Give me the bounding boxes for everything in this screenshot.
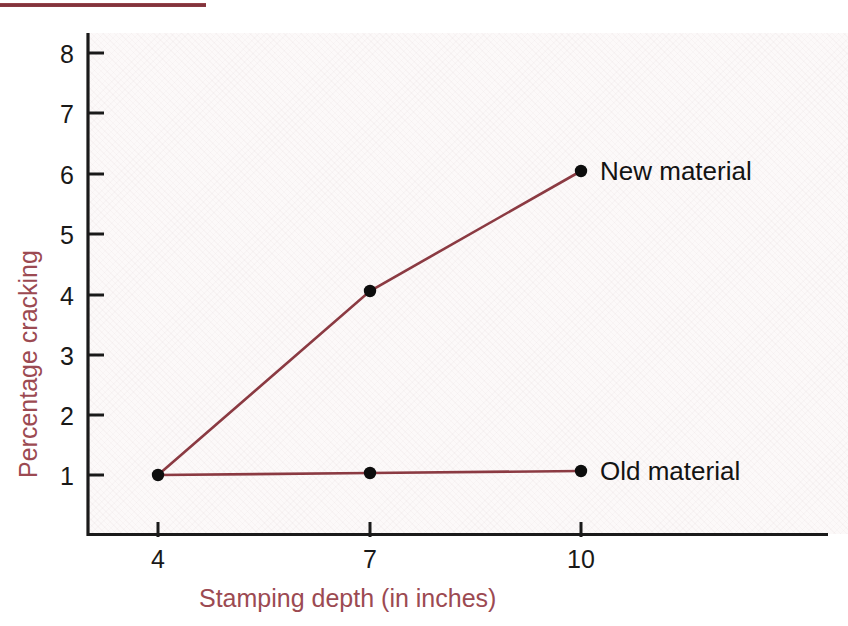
y-tick-label-8: 8 <box>34 40 74 69</box>
x-axis-title: Stamping depth (in inches) <box>199 584 496 613</box>
y-tick-label-6: 6 <box>34 161 74 190</box>
x-tick-label-7: 7 <box>340 545 400 574</box>
marker-shared-x4 <box>152 469 164 481</box>
series-label-new-material: New material <box>600 156 752 187</box>
chart-figure: 8 7 6 5 4 3 2 1 4 7 10 Percentage cracki… <box>0 0 848 626</box>
y-axis-ticks <box>88 53 104 475</box>
x-tick-label-10: 10 <box>551 545 611 574</box>
y-axis-title: Percentage cracking <box>14 250 43 478</box>
series-label-old-material: Old material <box>600 456 740 487</box>
plot-canvas <box>0 0 848 626</box>
y-tick-label-5: 5 <box>34 221 74 250</box>
x-tick-label-4: 4 <box>128 545 188 574</box>
marker-new-material-x10 <box>575 165 587 177</box>
y-tick-label-7: 7 <box>34 100 74 129</box>
marker-new-material-x7 <box>364 285 376 297</box>
marker-old-material-x10 <box>575 465 587 477</box>
data-point-markers <box>152 165 587 481</box>
series-line-new-material <box>158 171 581 475</box>
marker-old-material-x7 <box>364 467 376 479</box>
